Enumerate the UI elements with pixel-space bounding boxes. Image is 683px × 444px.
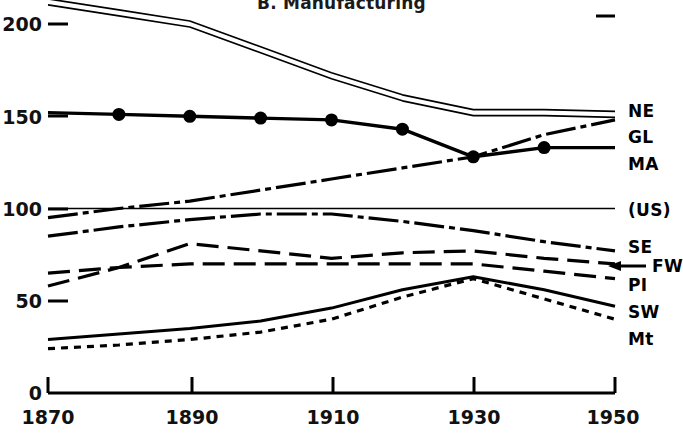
series-line-se [48, 214, 615, 251]
data-point-marker [325, 113, 338, 126]
data-point-marker [183, 110, 196, 123]
xtick-1870: 1870 [22, 406, 75, 428]
data-point-marker [467, 150, 480, 163]
series-label-ma: MA [628, 154, 659, 174]
series-label-sw: SW [628, 302, 660, 322]
series-label-mt: Mt [628, 329, 654, 349]
series-line-mt [48, 279, 615, 349]
series-label-fw: FW [652, 256, 683, 276]
ytick-100: 100 [2, 198, 42, 220]
ytick-150: 150 [2, 106, 42, 128]
data-point-marker [396, 123, 409, 136]
manufacturing-chart: B. Manufacturing 200 150 100 50 0 1870 1… [0, 0, 683, 444]
xtick-1910: 1910 [307, 406, 360, 428]
ytick-50: 50 [16, 290, 42, 312]
xtick-1950: 1950 [587, 406, 640, 428]
ytick-0: 0 [29, 382, 42, 404]
series-line-pi [48, 264, 615, 279]
ytick-200: 200 [2, 13, 42, 35]
series-label-pi: PI [628, 275, 647, 295]
data-point-marker [112, 108, 125, 121]
series-label-se: SE [628, 237, 652, 257]
xtick-1890: 1890 [166, 406, 219, 428]
series-line-sw [48, 277, 615, 340]
chart-plot-area: 200 150 100 50 0 1870 1890 1910 1930 195… [0, 0, 683, 444]
series-line-ne [48, 0, 615, 111]
series-line-gl [48, 120, 615, 218]
series-label-us: (US) [628, 200, 671, 220]
xtick-1930: 1930 [448, 406, 501, 428]
data-point-marker [538, 141, 551, 154]
series-label-ne: NE [628, 101, 654, 121]
series-group [48, 0, 615, 349]
series-line-ne [48, 5, 615, 118]
axis-lines [48, 377, 615, 393]
data-point-marker [254, 112, 267, 125]
series-label-gl: GL [628, 127, 653, 147]
